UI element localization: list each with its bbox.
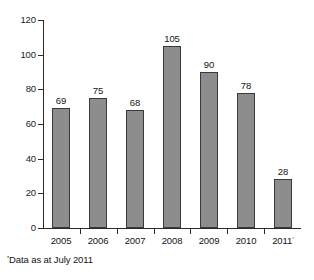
x-axis-tick — [80, 229, 81, 234]
y-axis-tick — [38, 228, 43, 229]
chart-footnote: ʼData as at July 2011 — [7, 254, 93, 265]
bar-chart-plot-area: 020406080100120 692005752006682007105200… — [0, 0, 314, 280]
x-axis-tick — [190, 229, 191, 234]
y-axis-tick — [38, 159, 43, 160]
y-axis-tick — [38, 124, 43, 125]
bar — [200, 72, 218, 228]
bar-value-label: 105 — [152, 34, 192, 44]
x-axis-label-footnote-marker: ʼ — [292, 236, 294, 245]
bar-value-label: 68 — [115, 98, 155, 108]
bar-value-label: 28 — [263, 167, 303, 177]
bar-value-label: 75 — [78, 86, 118, 96]
bar — [89, 98, 107, 228]
x-axis-category-label: 2011ʼ — [261, 235, 305, 246]
bar — [163, 46, 181, 228]
y-axis-line — [43, 20, 44, 229]
y-axis-tick-label: 60 — [26, 119, 36, 128]
x-axis-tick — [264, 229, 265, 234]
y-axis-tick — [38, 55, 43, 56]
y-axis-tick-label: 80 — [26, 84, 36, 93]
bar — [274, 179, 292, 228]
bar — [126, 110, 144, 228]
y-axis-tick-label: 20 — [26, 188, 36, 197]
footnote-text: ʼData as at July 2011 — [7, 254, 93, 265]
bar-value-label: 90 — [189, 60, 229, 70]
y-axis-tick — [38, 20, 43, 21]
y-axis-tick — [38, 193, 43, 194]
bar — [237, 93, 255, 228]
bar-value-label: 78 — [226, 81, 266, 91]
y-axis-tick — [38, 89, 43, 90]
y-axis-tick-label: 0 — [31, 223, 36, 232]
chart-page: 020406080100120 692005752006682007105200… — [0, 0, 314, 280]
x-axis-tick — [227, 229, 228, 234]
y-axis-tick-label: 40 — [26, 154, 36, 163]
x-axis-line — [43, 228, 301, 229]
y-axis-tick-label: 100 — [20, 50, 36, 59]
y-axis-tick-label: 120 — [20, 15, 36, 24]
x-axis-tick — [154, 229, 155, 234]
bar-value-label: 69 — [41, 96, 81, 106]
x-axis-tick — [117, 229, 118, 234]
bar — [52, 108, 70, 228]
